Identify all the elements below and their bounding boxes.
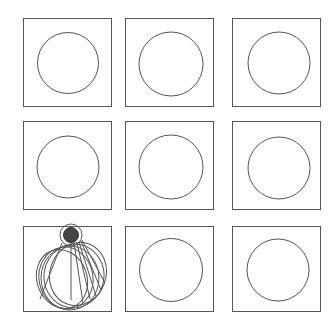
circle	[247, 239, 309, 301]
cell-r1-c3	[233, 19, 321, 107]
circle	[140, 239, 203, 302]
cell-r3-c3	[233, 227, 321, 312]
circle	[248, 137, 310, 199]
square-frame	[126, 227, 214, 312]
circle	[139, 135, 203, 199]
figure-canvas	[0, 0, 335, 321]
circle	[37, 136, 99, 198]
square-frame	[233, 122, 321, 210]
cell-r3-c2	[126, 227, 214, 312]
circle	[38, 33, 99, 94]
cell-r3-c1	[24, 224, 116, 316]
cell-r1-c2	[126, 19, 214, 107]
cell-r2-c1	[24, 122, 112, 210]
circle	[248, 32, 310, 94]
cell-r2-c3	[233, 122, 321, 210]
cell-r1-c1	[24, 19, 112, 107]
cone-sweep-drawing	[28, 224, 115, 316]
circle	[139, 32, 203, 96]
apex-shaded-circle	[64, 228, 79, 243]
cell-r2-c2	[126, 122, 214, 210]
